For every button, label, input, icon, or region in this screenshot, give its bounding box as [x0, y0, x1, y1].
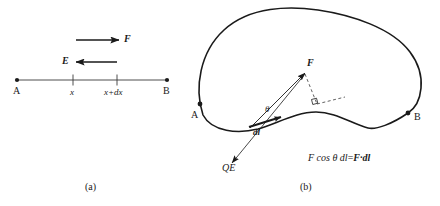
panel-b-caption: (b) — [300, 182, 312, 192]
panel-a-tick-label-x-plus-dx: x+dx — [104, 88, 123, 97]
panel-a-label-a: A — [13, 86, 20, 96]
panel-a-tick-label-x: x — [70, 88, 74, 97]
panel-b-force-vector-label: F — [307, 58, 314, 68]
projection-dashed-line — [305, 74, 317, 104]
path-dot-a — [198, 102, 203, 107]
tangent-dashed-extension — [317, 97, 345, 104]
equation-vector-form: F·dl — [353, 152, 370, 163]
panel-a-graphics — [15, 40, 169, 86]
panel-b-charge-field-label: QE — [222, 163, 235, 173]
panel-b-graphics — [198, 8, 422, 163]
panel-a-force-label: F — [124, 34, 131, 44]
figure-graphics — [0, 0, 440, 206]
equation-scalar-form: F cos θ dl — [308, 152, 348, 163]
panel-a-label-b: B — [163, 86, 170, 96]
path-dot-b — [406, 111, 411, 116]
qe-vector-line — [232, 74, 305, 163]
endpoint-dot-a — [15, 78, 19, 82]
panel-b-label-b: B — [414, 112, 421, 122]
panel-b-angle-label: θ — [265, 105, 269, 114]
endpoint-dot-b — [165, 78, 169, 82]
right-angle-marker — [312, 98, 318, 104]
panel-a-field-label: E — [62, 56, 69, 66]
panel-b-label-a: A — [191, 110, 198, 120]
panel-b-displacement-label: dl — [253, 128, 260, 137]
panel-b-equation: F cos θ dl=F·dl — [308, 153, 370, 163]
physics-figure: A B x x+dx F E (a) A B F θ dl QE F cos θ… — [0, 0, 440, 206]
panel-a-caption: (a) — [85, 182, 96, 192]
closed-path-loop — [199, 8, 421, 131]
force-vector-arrow — [250, 73, 305, 128]
